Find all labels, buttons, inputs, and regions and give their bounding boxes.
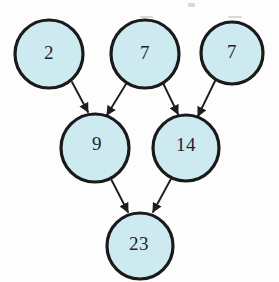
node-9[interactable]: 9 <box>61 114 129 182</box>
node-layer: 27791423 <box>15 20 263 279</box>
node-label: 9 <box>92 133 102 154</box>
scan-artifact <box>140 16 153 18</box>
edge-n9-to-n23 <box>110 177 128 212</box>
edge-n14-to-n23 <box>153 177 172 212</box>
node-label: 7 <box>227 41 237 62</box>
node-label: 7 <box>140 42 150 63</box>
diagram-canvas: 27791423 <box>0 0 279 282</box>
node-label: 23 <box>129 233 149 254</box>
node-label: 14 <box>176 134 196 155</box>
edge-n7a-to-n9 <box>107 84 126 115</box>
node-23[interactable]: 23 <box>107 213 173 279</box>
edge-n2-to-n9 <box>72 82 88 112</box>
node-2[interactable]: 2 <box>15 20 83 88</box>
scan-artifact <box>228 16 242 18</box>
edge-n7a-to-n14 <box>163 83 178 114</box>
node-link-diagram: 27791423 <box>0 0 279 282</box>
node-7[interactable]: 7 <box>111 20 179 88</box>
node-14[interactable]: 14 <box>153 115 219 181</box>
node-7[interactable]: 7 <box>201 22 263 84</box>
scan-artifact-layer <box>140 3 242 18</box>
node-label: 2 <box>44 42 54 63</box>
edge-n7b-to-n14 <box>198 79 216 116</box>
scan-artifact <box>188 3 195 7</box>
